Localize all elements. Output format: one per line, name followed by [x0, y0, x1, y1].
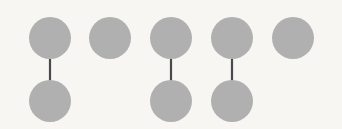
- node-b1: [29, 80, 71, 122]
- node-link-diagram: [0, 0, 342, 129]
- node-t5: [272, 17, 314, 59]
- node-b3: [150, 80, 192, 122]
- node-t3: [150, 17, 192, 59]
- edges-layer: [50, 38, 232, 102]
- node-t2: [89, 17, 131, 59]
- node-b4: [211, 80, 253, 122]
- figure-canvas: [0, 0, 342, 129]
- node-t4: [211, 17, 253, 59]
- node-t1: [29, 17, 71, 59]
